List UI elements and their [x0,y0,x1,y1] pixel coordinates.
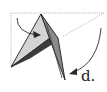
dotted-diagonal [62,13,104,37]
right-arrowhead-icon [69,68,77,75]
step-label: d. [81,69,95,84]
